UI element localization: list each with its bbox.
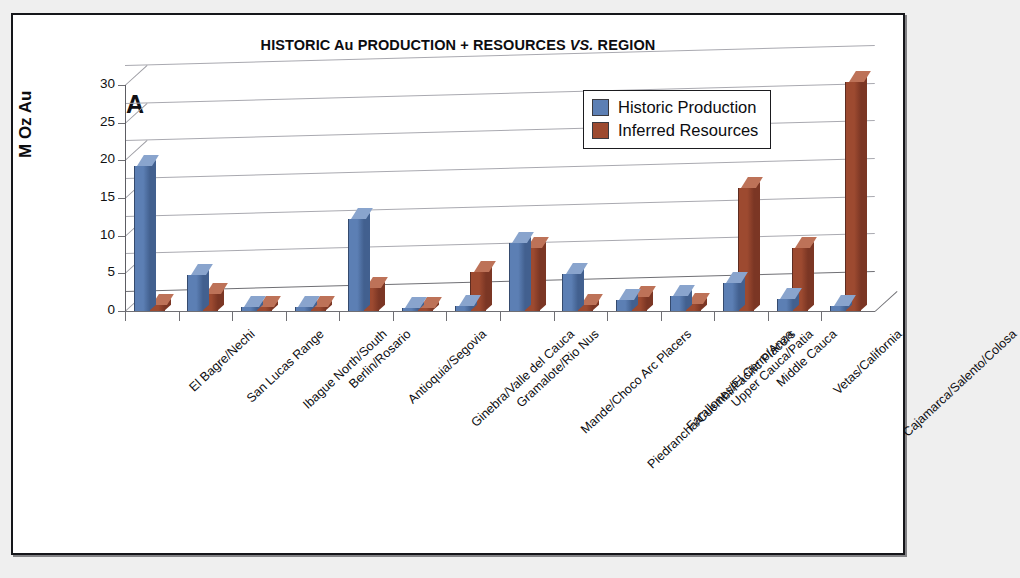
x-axis-tick	[446, 312, 447, 321]
bar-front-face	[777, 299, 793, 311]
bar-front-face	[187, 275, 203, 311]
x-axis-tick	[500, 312, 501, 321]
y-axis-tick	[118, 85, 125, 86]
bar-top-face	[366, 277, 388, 288]
x-axis-tick	[714, 312, 715, 321]
y-axis-tick	[118, 160, 125, 161]
bar-top-face	[137, 155, 159, 166]
y-axis-tick-label: 10	[75, 227, 115, 242]
bar-front-face	[402, 308, 418, 311]
bar-historic-production	[134, 155, 149, 311]
bar-top-face	[581, 294, 603, 305]
bar-top-face	[206, 283, 228, 294]
x-axis-tick	[661, 312, 662, 321]
bar-top-face	[849, 71, 871, 82]
bar-front-face	[455, 306, 471, 311]
bar-top-face	[474, 261, 496, 272]
gridline	[125, 158, 875, 179]
bar-front-face	[562, 274, 578, 311]
x-axis-category-label: Vetas/California	[830, 327, 904, 397]
y-axis-tick	[118, 198, 125, 199]
bar-historic-production	[616, 289, 631, 311]
bar-historic-production	[723, 272, 738, 311]
legend-item: Historic Production	[592, 96, 758, 119]
y-axis-tick-label: 5	[75, 264, 115, 279]
y-axis-tick	[118, 273, 125, 274]
axis-depth-edge	[125, 103, 148, 124]
y-axis-tick-label: 0	[75, 302, 115, 317]
x-axis-tick	[393, 312, 394, 321]
y-axis-tick	[118, 311, 125, 312]
x-axis-tick	[768, 312, 769, 321]
x-axis-category-label: Mande/Choco Arc Placers	[578, 327, 694, 437]
chart-legend: Historic Production Inferred Resources	[583, 90, 771, 149]
x-axis-tick	[821, 312, 822, 321]
gridline	[125, 45, 875, 66]
x-axis-tick	[339, 312, 340, 321]
bar-front-face	[509, 243, 525, 311]
bar-historic-production	[402, 297, 417, 311]
bar-front-face	[134, 166, 150, 311]
bar-historic-production	[562, 263, 577, 311]
y-axis-tick-label: 30	[75, 76, 115, 91]
y-axis-tick	[118, 236, 125, 237]
bar-front-face	[723, 283, 739, 311]
bar-front-face	[845, 82, 861, 311]
figure-frame: HISTORIC Au PRODUCTION + RESOURCES VS. R…	[11, 13, 905, 555]
bar-historic-production	[295, 296, 310, 311]
gridline	[125, 196, 875, 217]
bar-top-face	[741, 177, 763, 188]
x-axis-tick	[179, 312, 180, 321]
legend-item: Inferred Resources	[592, 119, 758, 142]
y-axis-tick	[118, 123, 125, 124]
y-axis-tick-label: 20	[75, 151, 115, 166]
x-axis-category-label: El Bagre/Nechi	[186, 327, 257, 395]
legend-swatch-historic-production	[592, 99, 609, 116]
bar-historic-production	[455, 295, 470, 311]
x-axis-tick	[286, 312, 287, 321]
bar-front-face	[348, 219, 364, 311]
bar-top-face	[351, 208, 373, 219]
x-axis-tick	[554, 312, 555, 321]
gridline	[125, 233, 875, 254]
bar-historic-production	[777, 288, 792, 311]
legend-label-historic-production: Historic Production	[618, 98, 756, 117]
legend-swatch-inferred-resources	[592, 122, 609, 139]
bar-historic-production	[187, 264, 202, 311]
bar-historic-production	[830, 295, 845, 311]
bar-historic-production	[509, 232, 524, 311]
bar-top-face	[566, 263, 588, 274]
x-axis-category-label: Ginebra/Valle del Cauca	[468, 327, 577, 430]
bar-front-face	[241, 307, 257, 311]
x-axis-category-label: Cajamarca/Salento/Colosa	[900, 327, 1019, 439]
bar-front-face	[295, 307, 311, 311]
x-axis-tick	[232, 312, 233, 321]
x-axis-tick	[125, 312, 126, 321]
floor-right-edge	[875, 291, 898, 312]
bar-inferred-resources	[845, 71, 860, 311]
gridline	[125, 271, 875, 292]
x-axis-tick	[607, 312, 608, 321]
y-axis-line	[125, 85, 126, 311]
x-axis-category-label: Antioquia/Segovia	[405, 327, 489, 406]
y-axis-tick-label: 25	[75, 114, 115, 129]
legend-label-inferred-resources: Inferred Resources	[618, 121, 758, 140]
chart-area: HISTORIC Au PRODUCTION + RESOURCES VS. R…	[13, 15, 903, 553]
bar-historic-production	[670, 285, 685, 311]
bar-front-face	[616, 300, 632, 311]
bar-historic-production	[348, 208, 363, 311]
bar-front-face	[670, 296, 686, 311]
bar-historic-production	[241, 296, 256, 311]
bar-top-face	[191, 264, 213, 275]
bar-front-face	[830, 306, 846, 311]
axis-depth-edge	[125, 65, 148, 86]
y-axis-tick-label: 15	[75, 189, 115, 204]
